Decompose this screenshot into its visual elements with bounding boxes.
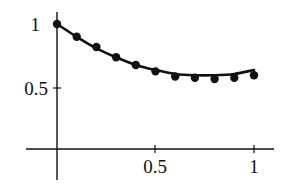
y-tick-label-0.5: 0.5 xyxy=(24,78,48,99)
data-point xyxy=(191,74,199,82)
y-tick-label-1: 1 xyxy=(31,14,41,35)
x-tick-label-0.5: 0.5 xyxy=(143,156,167,177)
axes xyxy=(26,12,274,180)
x-tick-label-1: 1 xyxy=(249,156,259,177)
data-point xyxy=(210,75,218,83)
data-point xyxy=(73,33,81,41)
data-point xyxy=(112,53,120,61)
data-point xyxy=(230,74,238,82)
chart: 1 0.5 0.5 1 xyxy=(0,0,283,189)
data-point xyxy=(92,43,100,51)
data-point xyxy=(53,20,61,28)
data-point xyxy=(132,61,140,69)
data-point xyxy=(151,67,159,75)
data-point xyxy=(250,71,258,79)
data-point xyxy=(171,72,179,80)
tick-labels: 1 0.5 0.5 1 xyxy=(24,14,259,177)
